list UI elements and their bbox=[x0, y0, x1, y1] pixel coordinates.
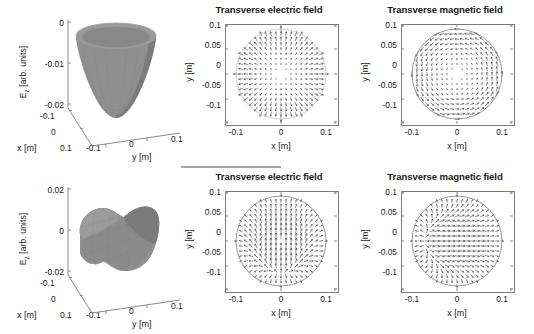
quiver-radial-tm01 bbox=[181, 0, 357, 167]
panel-tm11-ez-surface: Ez [arb. units] 0.02 0 -0.02 -0.1 0 0.1 … bbox=[0, 167, 180, 334]
surface-mesh-saddle bbox=[80, 206, 160, 271]
figure-canvas: Ez [arb. units] 0 -0.01 -0.02 -0.1 0 0.1… bbox=[0, 0, 534, 334]
panel-tm01-transverse-magnetic: Transverse magnetic field 0.1 0.05 0 -0.… bbox=[357, 0, 533, 167]
surface-mesh-bowl bbox=[76, 23, 156, 118]
surface3d-axes-tm11 bbox=[0, 167, 180, 334]
quiver-azimuthal-tm01 bbox=[357, 0, 533, 167]
surface3d-axes-tm01 bbox=[0, 0, 180, 167]
panel-tm11-transverse-magnetic: Transverse magnetic field 0.1 0.05 0 -0.… bbox=[357, 167, 533, 334]
panel-tm01-ez-surface: Ez [arb. units] 0 -0.01 -0.02 -0.1 0 0.1… bbox=[0, 0, 180, 167]
panel-tm11-transverse-electric: Transverse electric field 0.1 0.05 0 -0.… bbox=[181, 167, 357, 334]
panel-tm01-transverse-electric: Transverse electric field 0.1 0.05 0 -0.… bbox=[181, 0, 357, 167]
quiver-vertical-tm11 bbox=[181, 167, 357, 334]
quiver-horizontal-tm11 bbox=[357, 167, 533, 334]
